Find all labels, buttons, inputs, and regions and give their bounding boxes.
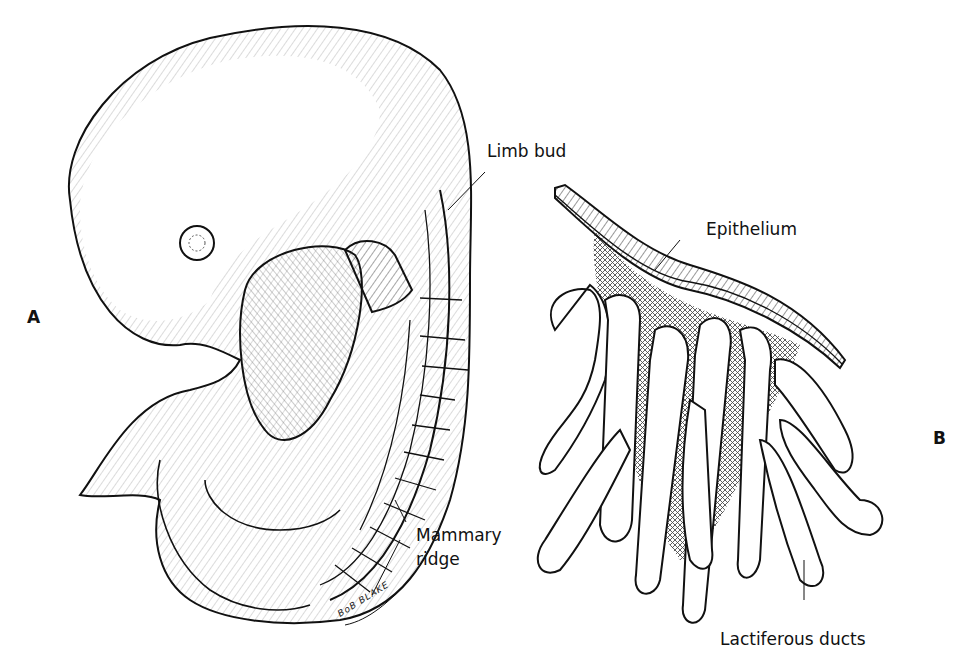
- label-limb-bud: Limb bud: [487, 140, 566, 162]
- panel-a-letter: A: [27, 307, 40, 327]
- label-lactiferous-ducts: Lactiferous ducts: [720, 628, 866, 650]
- label-mammary-ridge-line1: Mammary: [416, 524, 502, 546]
- label-epithelium: Epithelium: [706, 218, 797, 240]
- label-mammary-ridge-line2: ridge: [416, 548, 460, 570]
- illustration: [0, 0, 980, 670]
- ducts-drawing: [538, 185, 883, 623]
- figure: A B Limb bud Mammary ridge BoB BLAKE Epi…: [0, 0, 980, 670]
- panel-b-letter: B: [933, 428, 946, 448]
